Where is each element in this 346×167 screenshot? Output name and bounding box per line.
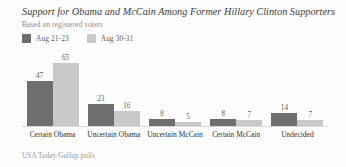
bar[interactable] xyxy=(27,81,53,127)
x-axis-label: Uncertain Obama xyxy=(83,130,144,139)
legend-item-series-2[interactable]: Aug 30-31 xyxy=(87,34,134,43)
chart-figure: Support for Obama and McCain Among Forme… xyxy=(0,0,346,167)
bar-column[interactable]: 16 xyxy=(114,111,140,127)
legend-item-series-1[interactable]: Aug 21-23 xyxy=(22,34,69,43)
bar-column[interactable]: 14 xyxy=(271,113,297,127)
bar-column[interactable]: 23 xyxy=(88,104,114,127)
bar-value-label: 65 xyxy=(62,54,69,62)
legend-swatch-series-1 xyxy=(22,34,31,43)
bar-group: 2316 xyxy=(83,52,144,127)
bar-groups: 476523168587147 xyxy=(22,52,328,127)
bar-value-label: 14 xyxy=(281,104,288,112)
bar-value-label: 16 xyxy=(123,102,130,110)
bar-column[interactable]: 65 xyxy=(53,63,79,127)
x-axis-label: Uncertain McCain xyxy=(144,130,205,139)
bar-value-label: 7 xyxy=(309,111,313,119)
bar-value-label: 23 xyxy=(97,95,104,103)
bar-value-label: 7 xyxy=(247,111,251,119)
bar-group: 85 xyxy=(144,52,205,127)
bar[interactable] xyxy=(53,63,79,127)
bar-value-label: 8 xyxy=(221,110,225,118)
legend-label-series-2: Aug 30-31 xyxy=(101,34,134,43)
page-title: Support for Obama and McCain Among Forme… xyxy=(22,6,332,18)
bar[interactable] xyxy=(271,113,297,127)
chart-subtitle: Based on registered voters xyxy=(22,20,103,29)
bar-group: 147 xyxy=(267,52,328,127)
legend-swatch-series-2 xyxy=(87,34,96,43)
x-axis-label: Undecided xyxy=(267,130,328,139)
chart-legend: Aug 21-23 Aug 30-31 xyxy=(22,33,151,43)
bar[interactable] xyxy=(114,111,140,127)
x-axis-label: Certain McCain xyxy=(206,130,267,139)
axis-baseline xyxy=(22,126,328,127)
bar-value-label: 47 xyxy=(36,72,43,80)
bar-column[interactable]: 47 xyxy=(27,81,53,127)
legend-label-series-1: Aug 21-23 xyxy=(36,34,69,43)
source-note: USA Today/Gallup polls xyxy=(22,152,95,160)
bar[interactable] xyxy=(88,104,114,127)
bar-group: 4765 xyxy=(22,52,83,127)
plot-area: 476523168587147 xyxy=(22,52,328,127)
x-axis-label: Certain Obama xyxy=(22,130,83,139)
bar-group: 87 xyxy=(206,52,267,127)
bar-value-label: 5 xyxy=(186,113,190,121)
x-axis-labels: Certain ObamaUncertain ObamaUncertain Mc… xyxy=(22,130,328,139)
bar-value-label: 8 xyxy=(160,110,164,118)
